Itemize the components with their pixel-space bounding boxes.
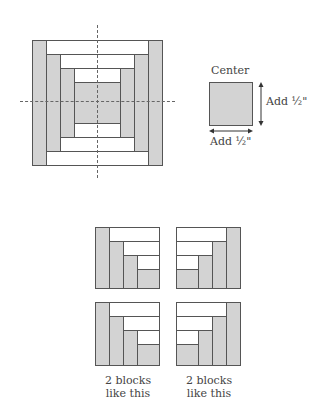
outer-right-strip <box>148 40 163 166</box>
horizontal-dimension-label: Add ½" <box>210 136 251 147</box>
strip <box>123 316 160 331</box>
strip <box>137 344 160 366</box>
strip <box>137 269 160 289</box>
strip <box>176 255 199 270</box>
strip <box>123 255 138 289</box>
strip <box>176 227 227 242</box>
vertical-dimension-label: Add ½" <box>266 96 307 107</box>
strip <box>176 269 199 289</box>
strip <box>95 227 110 289</box>
strip <box>226 227 241 289</box>
strip <box>176 241 213 256</box>
strip <box>226 302 241 366</box>
strip <box>176 302 227 317</box>
caption-left-line2: like this <box>93 387 163 400</box>
vertical-guide-line <box>97 25 98 178</box>
strip <box>176 330 199 345</box>
ring2-left-strip <box>46 54 61 152</box>
strip <box>109 316 124 366</box>
strip <box>109 302 160 317</box>
ring2-right-strip <box>134 54 149 152</box>
strip <box>198 330 213 366</box>
strip <box>137 330 160 345</box>
strip <box>95 302 110 366</box>
strip <box>123 241 160 256</box>
caption-left-line1: 2 blocks <box>93 374 163 387</box>
strip <box>176 344 199 366</box>
caption-right: 2 blocks like this <box>174 374 244 400</box>
vertical-dimension-arrow-icon <box>258 82 264 126</box>
caption-right-line2: like this <box>174 387 244 400</box>
horizontal-dimension-arrow-icon <box>209 128 253 134</box>
ring3-right-strip <box>120 68 135 138</box>
strip <box>109 241 124 289</box>
strip <box>212 241 227 289</box>
center-title: Center <box>211 65 249 76</box>
caption-left: 2 blocks like this <box>93 374 163 400</box>
strip <box>109 227 160 242</box>
strip <box>137 255 160 270</box>
strip <box>212 316 227 366</box>
center-detail-square <box>209 82 253 126</box>
strip <box>176 316 213 331</box>
strip <box>123 330 138 366</box>
caption-right-line1: 2 blocks <box>174 374 244 387</box>
outer-left-strip <box>32 40 47 166</box>
ring3-left-strip <box>60 68 75 138</box>
strip <box>198 255 213 289</box>
